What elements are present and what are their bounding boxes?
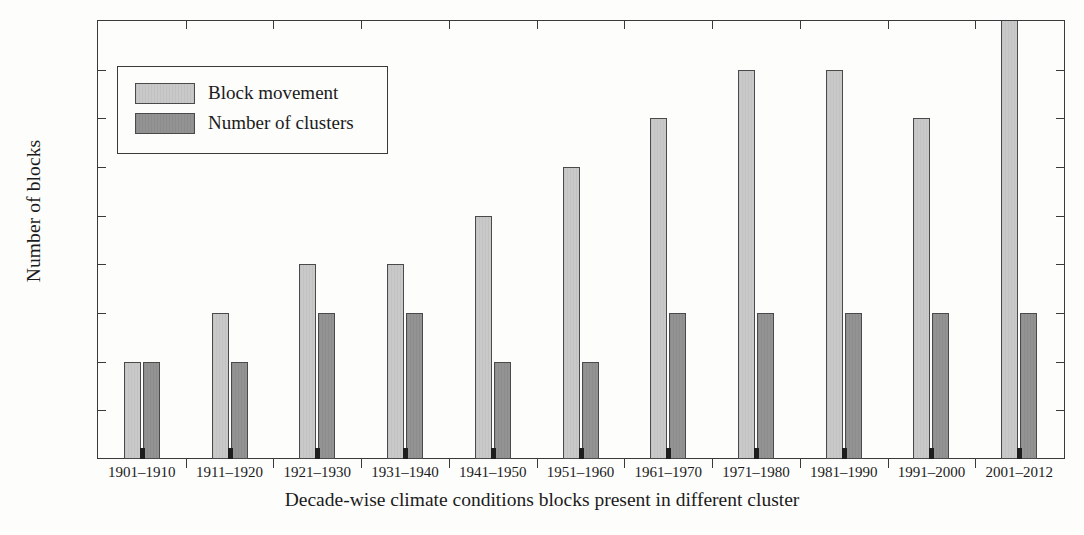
bar-group-baseline-stub [403,448,408,459]
bar-2001–2012-number-of-clusters [1020,313,1037,459]
bar-group-baseline-stub [666,448,671,459]
bar-1941–1950-number-of-clusters [494,362,511,459]
bar-1991–2000-block-movement [913,118,930,459]
bar-1921–1930-block-movement [299,264,316,459]
legend-entry-number-of-clusters: Number of clusters [135,111,354,135]
legend-swatch-number-of-clusters [135,113,195,134]
bar-1931–1940-number-of-clusters [406,313,423,459]
bar-group-baseline-stub [228,448,233,459]
x-axis-title: Decade-wise climate conditions blocks pr… [0,489,1084,511]
bar-1971–1980-number-of-clusters [757,313,774,459]
chart-legend: Block movement Number of clusters [117,66,388,154]
bar-1981–1990-block-movement [826,70,843,459]
x-tick-label-2001–2012: 2001–2012 [959,464,1079,481]
legend-label-block-movement: Block movement [208,82,338,104]
bar-1971–1980-block-movement [738,70,755,459]
bar-1961–1970-number-of-clusters [669,313,686,459]
bar-1941–1950-block-movement [475,216,492,459]
bar-1921–1930-number-of-clusters [318,313,335,459]
legend-swatch-block-movement [135,83,195,104]
bar-group-baseline-stub [842,448,847,459]
y-axis-title: Number of blocks [23,11,45,411]
bar-group-baseline-stub [491,448,496,459]
bar-1951–1960-number-of-clusters [582,362,599,459]
bar-1961–1970-block-movement [650,118,667,459]
bar-group-baseline-stub [140,448,145,459]
bar-1901–1910-number-of-clusters [143,362,160,459]
bar-group-baseline-stub [929,448,934,459]
bar-1911–1920-number-of-clusters [231,362,248,459]
legend-entry-block-movement: Block movement [135,81,338,105]
bar-1991–2000-number-of-clusters [932,313,949,459]
bar-chart-figure: Number of blocks 0123456789 1901–1910191… [0,0,1084,535]
bar-1901–1910-block-movement [124,362,141,459]
bar-1911–1920-block-movement [212,313,229,459]
bar-group-baseline-stub [754,448,759,459]
legend-label-number-of-clusters: Number of clusters [208,112,354,134]
bar-1951–1960-block-movement [563,167,580,459]
bar-1931–1940-block-movement [387,264,404,459]
bar-group-baseline-stub [579,448,584,459]
bar-group-baseline-stub [315,448,320,459]
bar-1981–1990-number-of-clusters [845,313,862,459]
bar-group-baseline-stub [1017,448,1022,459]
bar-2001–2012-block-movement [1001,21,1018,459]
